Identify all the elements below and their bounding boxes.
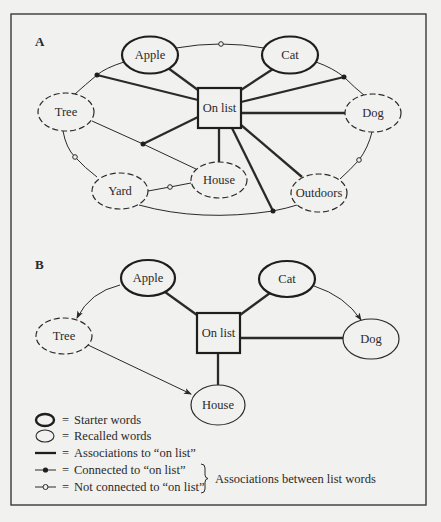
svg-text:Dog: Dog <box>360 332 382 346</box>
node-a-tree: Tree <box>38 93 94 131</box>
legend-starter-words: = Starter words <box>36 413 141 427</box>
svg-text:Dog: Dog <box>362 106 384 120</box>
svg-text:House: House <box>202 398 234 412</box>
svg-text:House: House <box>203 173 235 187</box>
connected-dot <box>342 75 347 80</box>
node-a-apple: Apple <box>122 37 178 74</box>
legend-recalled-words: = Recalled words <box>36 429 152 443</box>
svg-text:=: = <box>62 413 69 427</box>
node-a-yard: Yard <box>92 173 148 209</box>
not-connected-dot <box>168 185 173 190</box>
not-connected-dot <box>357 158 362 163</box>
svg-text:=: = <box>62 429 69 443</box>
node-b-tree: Tree <box>36 318 92 354</box>
node-b-dog: Dog <box>343 319 399 359</box>
svg-text:=: = <box>62 480 69 494</box>
panel-b-onlist-associations <box>165 292 343 385</box>
thin-ellipse-icon <box>36 430 54 442</box>
node-b-house: House <box>191 385 245 425</box>
panel-b: B Apple Cat Tree Dog <box>35 257 399 425</box>
svg-text:=: = <box>62 463 69 477</box>
svg-text:On list: On list <box>203 101 237 115</box>
node-a-cat: Cat <box>262 37 318 74</box>
filled-dot-icon <box>43 467 48 472</box>
legend: = Starter words = Recalled words = Assoc… <box>35 413 376 494</box>
connected-dot <box>141 142 146 147</box>
node-b-on-list: On list <box>197 313 240 353</box>
svg-text:Cat: Cat <box>278 272 296 286</box>
svg-text:On list: On list <box>202 326 236 340</box>
thick-ellipse-icon <box>36 414 54 426</box>
svg-text:=: = <box>62 446 69 460</box>
memory-association-diagram: A <box>0 0 441 522</box>
connected-dot <box>95 73 100 78</box>
legend-connected: = Connected to “on list” <box>35 463 185 477</box>
svg-text:Connected to “on list”: Connected to “on list” <box>74 463 185 477</box>
svg-text:Associations to “on list”: Associations to “on list” <box>74 446 196 460</box>
svg-text:Recalled words: Recalled words <box>74 429 152 443</box>
node-a-on-list: On list <box>198 88 241 128</box>
legend-associations-to-on-list: = Associations to “on list” <box>35 446 196 460</box>
svg-text:Tree: Tree <box>55 105 78 119</box>
node-a-house: House <box>191 162 247 198</box>
node-b-cat: Cat <box>259 261 315 297</box>
svg-text:Apple: Apple <box>133 271 164 285</box>
node-b-apple: Apple <box>121 260 175 296</box>
node-a-outdoors: Outdoors <box>291 174 347 212</box>
svg-text:Outdoors: Outdoors <box>296 186 343 200</box>
node-a-dog: Dog <box>345 94 401 132</box>
svg-text:Yard: Yard <box>108 184 132 198</box>
not-connected-dot <box>73 155 78 160</box>
open-dot-icon <box>43 485 48 490</box>
not-connected-dot <box>219 42 224 47</box>
svg-text:Starter words: Starter words <box>74 413 141 427</box>
panel-b-label: B <box>35 257 44 272</box>
legend-not-connected: = Not connected to “on list” <box>35 480 205 494</box>
svg-text:Cat: Cat <box>281 48 299 62</box>
panel-a-label: A <box>35 34 45 49</box>
svg-text:Not connected to “on list”: Not connected to “on list” <box>74 480 205 494</box>
panel-a: A <box>35 34 401 215</box>
svg-text:Tree: Tree <box>53 329 76 343</box>
svg-text:Apple: Apple <box>135 48 166 62</box>
connected-dot <box>271 209 276 214</box>
legend-brace-label: Associations between list words <box>215 472 376 486</box>
caption-cutoff <box>12 513 430 522</box>
